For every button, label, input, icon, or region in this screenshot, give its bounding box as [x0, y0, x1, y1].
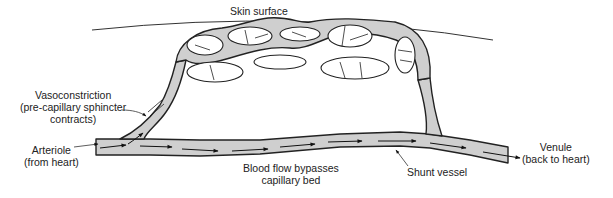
venule-line2: (back to heart): [522, 153, 590, 165]
venule-label: Venule (back to heart): [522, 141, 590, 165]
vasoconstriction-line3: contracts): [20, 113, 126, 125]
shunt-vessel: [96, 132, 508, 163]
venule-line1: Venule: [522, 141, 590, 153]
arteriole-label: Arteriole (from heart): [24, 144, 79, 168]
arteriole-branch: [120, 60, 186, 139]
vasoconstriction-line2: (pre-capillary sphincter: [20, 101, 126, 113]
bypass-label: Blood flow bypasses capillary bed: [243, 162, 339, 186]
vasoconstriction-line1: Vasoconstriction: [20, 89, 126, 101]
arteriole-line1: Arteriole: [24, 144, 79, 156]
skin-surface-label: Skin surface: [230, 5, 288, 17]
shunt-vessel-label: Shunt vessel: [407, 166, 467, 178]
arteriole-line2: (from heart): [24, 156, 79, 168]
bypass-line2: capillary bed: [243, 174, 339, 186]
bypass-line1: Blood flow bypasses: [243, 162, 339, 174]
venous-branch: [418, 78, 442, 136]
vasoconstriction-label: Vasoconstriction (pre-capillary sphincte…: [20, 89, 126, 125]
